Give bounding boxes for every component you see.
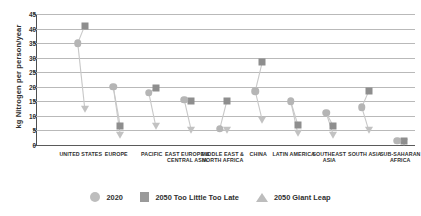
y-axis-line [36,14,37,145]
marker-2050-giant-leap [294,130,302,137]
marker-2050-too-little-too-late [401,137,408,144]
legend-item[interactable]: 2050 Too Little Too Late [140,192,239,202]
marker-2050-giant-leap [223,127,231,134]
x-axis-label: SUB-SAHARAN AFRICA [377,151,421,163]
legend-label: 2020 [106,193,122,202]
y-axis-tick-label: 45 [12,11,36,18]
marker-2020 [181,96,189,104]
marker-2050-too-little-too-late [294,121,301,128]
circle-marker-icon [90,192,100,202]
marker-2050-giant-leap [365,127,373,134]
gridline [36,29,415,30]
gridline [36,72,415,73]
y-axis-tick-label: 0 [12,142,36,149]
x-axis-labels: UNITED STATESEUROPEPACIFICEAST EUROPE & … [36,151,415,187]
connector-line [78,43,85,109]
marker-2050-too-little-too-late [117,123,124,130]
legend-label: 2050 Too Little Too Late [155,193,239,202]
marker-2050-too-little-too-late [188,98,195,105]
y-axis-tick-label: 10 [12,112,36,119]
square-marker-icon [140,192,150,202]
gridline [36,43,415,44]
y-axis-tick-label: 30 [12,54,36,61]
marker-2050-giant-leap [152,123,160,130]
marker-2050-too-little-too-late [330,123,337,130]
connector-line [113,87,120,126]
legend-item[interactable]: 2020 [90,192,122,202]
connector-line [149,93,156,126]
y-axis-tick-label: 25 [12,69,36,76]
triangle-marker-icon [256,193,268,202]
marker-2050-too-little-too-late [259,59,266,66]
marker-2020 [110,83,118,91]
marker-2020 [252,87,260,95]
y-axis-tick-label: 15 [12,98,36,105]
marker-2050-giant-leap [258,117,266,124]
plot-area [36,14,415,145]
legend-item[interactable]: 2050 Giant Leap [256,193,331,202]
marker-2050-giant-leap [187,127,195,134]
y-axis-tick-label: 5 [12,127,36,134]
marker-2020 [74,39,82,47]
nitrogen-scatter-chart: kg Nitrogen per person/year 454035302520… [0,0,421,216]
y-axis-tick-label: 40 [12,25,36,32]
marker-2050-too-little-too-late [81,22,88,29]
marker-2050-giant-leap [81,105,89,112]
marker-2020 [358,103,366,111]
connector-lines [36,14,415,145]
y-axis-tick-label: 20 [12,83,36,90]
gridline [36,145,415,146]
marker-2020 [145,89,153,97]
gridline [36,116,415,117]
gridline [36,87,415,88]
marker-2050-too-little-too-late [152,85,159,92]
marker-2020 [216,125,224,133]
marker-2020 [394,137,402,145]
marker-2050-giant-leap [116,132,124,139]
legend-label: 2050 Giant Leap [274,193,331,202]
gridline [36,58,415,59]
marker-2050-too-little-too-late [365,88,372,95]
marker-2050-too-little-too-late [223,98,230,105]
marker-2020 [287,98,295,106]
marker-2020 [323,109,331,117]
marker-2050-giant-leap [329,132,337,139]
chart-legend: 20202050 Too Little Too Late2050 Giant L… [0,192,421,202]
y-axis-tick-label: 35 [12,40,36,47]
gridline [36,14,415,15]
connector-line [291,101,298,133]
